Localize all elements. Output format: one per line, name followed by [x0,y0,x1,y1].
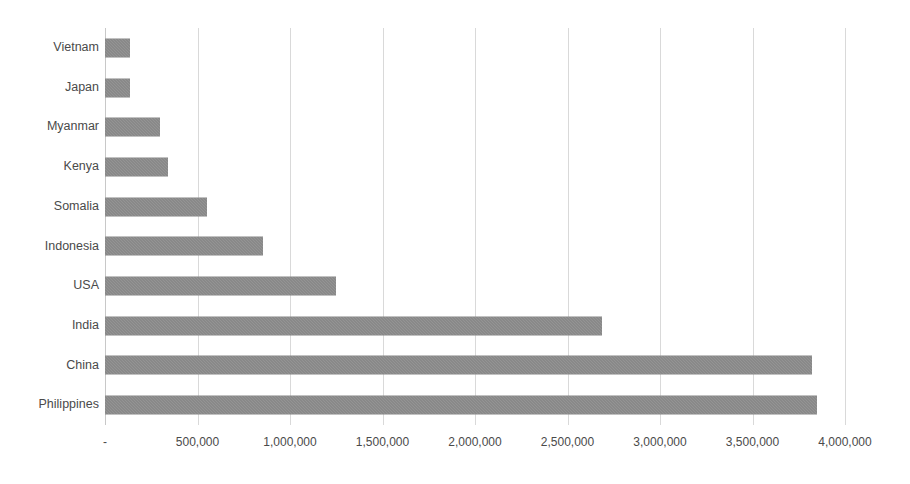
value-tick-label: 2,000,000 [448,432,501,452]
bar[interactable] [105,197,207,216]
gridline [845,28,846,425]
bar-row [105,306,845,346]
value-tick-label: 1,500,000 [356,432,409,452]
bar[interactable] [105,316,602,335]
bar-row [105,28,845,68]
bar-row [105,68,845,108]
bar-chart: VietnamJapanMyanmarKenyaSomaliaIndonesia… [0,0,910,484]
bar-row [105,147,845,187]
value-tick-label: 500,000 [176,432,219,452]
bar-row [105,187,845,227]
category-axis-labels: VietnamJapanMyanmarKenyaSomaliaIndonesia… [0,28,99,425]
bar-row [105,385,845,425]
category-label: Myanmar [47,107,99,147]
bar[interactable] [105,78,130,97]
bar[interactable] [105,237,263,256]
category-label: Indonesia [45,227,99,267]
bars-layer [105,28,845,425]
value-tick-label: 2,500,000 [541,432,594,452]
value-tick-label: - [103,432,107,452]
value-tick-label: 3,500,000 [726,432,779,452]
category-label: Japan [65,68,99,108]
value-tick-label: 3,000,000 [633,432,686,452]
category-label: Vietnam [53,28,99,68]
value-tick-label: 1,000,000 [263,432,316,452]
bar[interactable] [105,38,130,57]
category-label: India [72,306,99,346]
category-label: Philippines [39,385,99,425]
category-label: Kenya [64,147,99,187]
bar-row [105,107,845,147]
bar-row [105,346,845,386]
bar[interactable] [105,396,817,415]
bar[interactable] [105,356,812,375]
bar[interactable] [105,277,336,296]
value-axis-labels: -500,0001,000,0001,500,0002,000,0002,500… [0,432,910,462]
category-label: China [66,346,99,386]
category-label: Somalia [54,187,99,227]
bar[interactable] [105,157,168,176]
value-tick-label: 4,000,000 [818,432,871,452]
bar-row [105,266,845,306]
bar[interactable] [105,118,160,137]
bar-row [105,227,845,267]
category-label: USA [73,266,99,306]
